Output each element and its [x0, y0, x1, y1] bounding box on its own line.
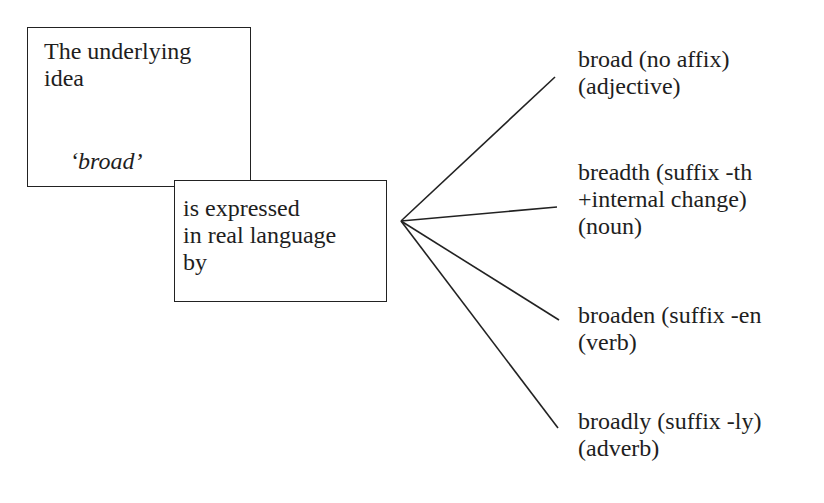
form-broadly: broadly (suffix -ly) (adverb) — [578, 408, 762, 462]
expression-line-3: by — [183, 249, 336, 276]
form-breadth-detail: +internal change) — [578, 186, 752, 213]
form-broadly-class: (adverb) — [578, 435, 762, 462]
form-broad-class: (adjective) — [578, 73, 730, 100]
underlying-idea-label: The underlying idea — [44, 38, 191, 92]
connector-line-broad — [401, 77, 555, 221]
form-broaden-class: (verb) — [578, 329, 762, 356]
form-breadth: breadth (suffix -th +internal change) (n… — [578, 159, 752, 240]
form-broadly-word: broadly (suffix -ly) — [578, 408, 762, 435]
expression-box: is expressed in real language by — [174, 180, 387, 302]
idea-word: ‘broad’ — [70, 148, 142, 175]
underlying-idea-box: The underlying idea ‘broad’ — [27, 27, 251, 187]
idea-line-1: The underlying — [44, 38, 191, 65]
connector-line-broaden — [401, 221, 559, 320]
connector-line-breadth — [401, 207, 557, 221]
expression-label: is expressed in real language by — [183, 195, 336, 276]
expression-line-2: in real language — [183, 222, 336, 249]
connector-line-broadly — [401, 221, 558, 428]
idea-line-2: idea — [44, 65, 191, 92]
form-breadth-class: (noun) — [578, 213, 752, 240]
expression-line-1: is expressed — [183, 195, 336, 222]
form-broaden: broaden (suffix -en (verb) — [578, 302, 762, 356]
form-broaden-word: broaden (suffix -en — [578, 302, 762, 329]
form-broad-word: broad (no affix) — [578, 46, 730, 73]
form-broad: broad (no affix) (adjective) — [578, 46, 730, 100]
form-breadth-word: breadth (suffix -th — [578, 159, 752, 186]
